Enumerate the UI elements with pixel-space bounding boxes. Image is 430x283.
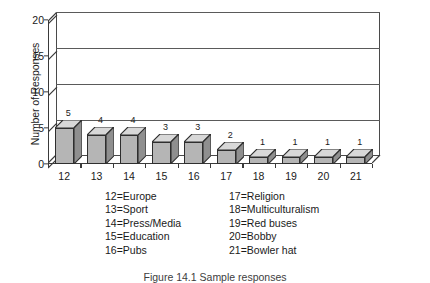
x-tick-mark (372, 164, 373, 168)
x-tick-mark (275, 164, 276, 168)
bar (120, 127, 139, 164)
y-tick-label: 20 (32, 14, 44, 26)
y-tick-label: 5 (38, 122, 44, 134)
bar-value-label: 1 (345, 137, 375, 147)
legend-item: 12=Europe (105, 190, 215, 203)
bar-side-face (203, 134, 211, 164)
x-tick-label: 18 (242, 170, 276, 182)
bar-value-label: 1 (312, 137, 342, 147)
bar-front-face (55, 128, 74, 164)
bar-front-face (152, 142, 171, 164)
bar (184, 134, 203, 164)
bar-side-face (268, 149, 276, 164)
bar-front-face (120, 135, 139, 164)
bar-side-face (365, 149, 373, 164)
x-tick-label: 21 (339, 170, 373, 182)
bar-front-face (184, 142, 203, 164)
legend: 12=Europe13=Sport14=Press/Media15=Educat… (105, 190, 425, 257)
bar-front-face (314, 157, 333, 164)
x-tick-mark (307, 164, 308, 168)
bar (55, 120, 74, 164)
bar-front-face (282, 157, 301, 164)
bar (249, 149, 268, 164)
bar (217, 142, 236, 164)
legend-item: 17=Religion (229, 190, 409, 203)
bar-value-label: 1 (280, 137, 310, 147)
bar-value-label: 2 (215, 130, 245, 140)
x-tick-mark (48, 164, 49, 168)
x-tick-label: 16 (177, 170, 211, 182)
bar-value-label: 4 (86, 115, 116, 125)
legend-item: 21=Bowler hat (229, 244, 409, 257)
bar-side-face (300, 149, 308, 164)
x-tick-label: 13 (80, 170, 114, 182)
bar-side-face (138, 127, 146, 164)
bar-value-label: 3 (150, 122, 180, 132)
bar (152, 134, 171, 164)
bar-side-face (333, 149, 341, 164)
x-tick-label: 20 (306, 170, 340, 182)
legend-item: 13=Sport (105, 203, 215, 216)
x-tick-label: 15 (144, 170, 178, 182)
x-tick-label: 17 (209, 170, 243, 182)
bar-front-face (217, 150, 236, 164)
x-tick-mark (242, 164, 243, 168)
legend-column-right: 17=Religion18=Multiculturalism19=Red bus… (229, 190, 409, 257)
bar-side-face (171, 134, 179, 164)
x-tick-mark (80, 164, 81, 168)
plot-area: 05101520 5443321111 12131415161718192021 (48, 12, 380, 164)
x-tick-mark (340, 164, 341, 168)
bar-side-face (236, 142, 244, 164)
y-tick-label: 15 (32, 50, 44, 62)
x-tick-mark (210, 164, 211, 168)
legend-item: 20=Bobby (229, 230, 409, 243)
legend-item: 14=Press/Media (105, 217, 215, 230)
bar-series: 5443321111 (48, 12, 380, 164)
bar-value-label: 1 (248, 137, 278, 147)
bar-front-face (87, 135, 106, 164)
legend-column-left: 12=Europe13=Sport14=Press/Media15=Educat… (105, 190, 215, 257)
legend-item: 15=Education (105, 230, 215, 243)
legend-item: 19=Red buses (229, 217, 409, 230)
bar-value-label: 4 (118, 115, 148, 125)
bar-value-label: 3 (183, 122, 213, 132)
bar-front-face (346, 157, 365, 164)
bar-front-face (249, 157, 268, 164)
bar-side-face (106, 127, 114, 164)
figure-caption: Figure 14.1 Sample responses (0, 271, 430, 283)
x-tick-label: 12 (47, 170, 81, 182)
x-tick-mark (178, 164, 179, 168)
bar (282, 149, 301, 164)
bar-value-label: 5 (53, 108, 83, 118)
bar (346, 149, 365, 164)
x-tick-mark (113, 164, 114, 168)
legend-item: 18=Multiculturalism (229, 203, 409, 216)
x-tick-label: 14 (112, 170, 146, 182)
bar-side-face (74, 120, 82, 164)
x-tick-mark (145, 164, 146, 168)
x-tick-label: 19 (274, 170, 308, 182)
bar (314, 149, 333, 164)
y-tick-label: 10 (32, 86, 44, 98)
bar (87, 127, 106, 164)
legend-item: 16=Pubs (105, 244, 215, 257)
y-tick-label: 0 (38, 158, 44, 170)
